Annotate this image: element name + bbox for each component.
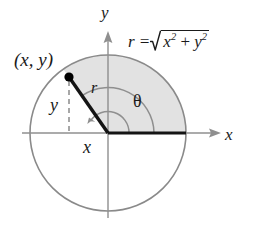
formula-exp-y: 2: [202, 31, 207, 42]
x-axis-label: x: [225, 126, 233, 143]
point-coordinates-label: (x, y): [14, 50, 53, 69]
formula-term-y: y: [194, 32, 202, 51]
radius-label: r: [91, 80, 97, 96]
radicand: x2 + y2: [161, 30, 209, 50]
polar-coordinates-figure: (x, y) y x y x r θ r = x2 + y2: [0, 0, 254, 229]
square-root-expression: x2 + y2: [150, 29, 209, 50]
angle-arc-arrowhead: [87, 117, 95, 124]
formula-plus-sign: +: [180, 32, 190, 51]
vertical-leg-label: y: [50, 96, 58, 114]
angle-theta-label: θ: [133, 92, 142, 110]
formula-exp-x: 2: [171, 31, 176, 42]
horizontal-leg-label: x: [83, 138, 91, 156]
y-axis-label: y: [101, 4, 109, 21]
formula-term-x: x: [163, 32, 171, 51]
diagram-canvas: [0, 0, 254, 229]
radius-formula: r = x2 + y2: [128, 29, 209, 50]
formula-lhs: r =: [128, 32, 150, 51]
plotted-point: [64, 72, 73, 81]
radical-sign-icon: [150, 29, 161, 50]
